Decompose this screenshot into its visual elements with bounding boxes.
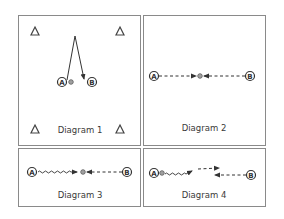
svg-text:B: B — [247, 73, 252, 81]
player-b-icon: B — [246, 72, 255, 81]
svg-text:A: A — [29, 169, 35, 177]
ball-icon — [160, 171, 164, 175]
svg-text:B: B — [89, 79, 94, 87]
panel-label: Diagram 3 — [58, 190, 103, 200]
panel-diagram-3: A B Diagram 3 — [19, 149, 141, 207]
svg-text:B: B — [124, 169, 129, 177]
player-b-icon: B — [88, 78, 97, 87]
drill-diagrams: A B Diagram 1 A B Diagram 2 — [0, 0, 284, 219]
ball-icon — [81, 170, 85, 174]
player-a-icon: A — [150, 169, 159, 178]
ball-icon — [198, 74, 202, 78]
ball-icon — [69, 80, 73, 84]
panel-diagram-1: A B Diagram 1 — [19, 16, 141, 146]
svg-text:A: A — [59, 79, 65, 87]
player-a-icon: A — [58, 78, 67, 87]
panel-label: Diagram 1 — [58, 125, 103, 135]
player-b-icon: B — [247, 171, 256, 180]
svg-text:A: A — [151, 73, 157, 81]
panel-diagram-4: A B Diagram 4 — [144, 149, 266, 207]
panel-diagram-2: A B Diagram 2 — [144, 16, 266, 146]
player-b-icon: B — [123, 168, 132, 177]
player-a-icon: A — [150, 72, 159, 81]
panel-label: Diagram 4 — [182, 190, 227, 200]
panel-label: Diagram 2 — [182, 123, 227, 133]
svg-text:A: A — [151, 170, 157, 178]
svg-text:B: B — [248, 172, 253, 180]
player-a-icon: A — [28, 168, 37, 177]
